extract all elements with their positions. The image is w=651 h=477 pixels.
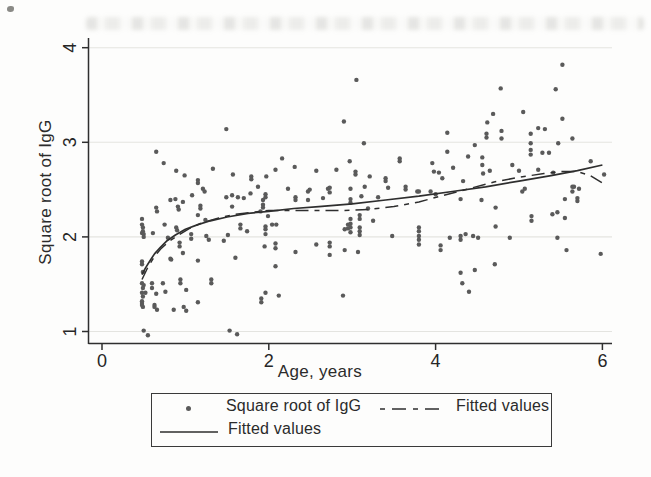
scatter-point	[162, 161, 166, 165]
scatter-point	[563, 197, 567, 201]
scatter-point	[143, 291, 147, 295]
scatter-point	[555, 210, 559, 214]
scatter-point	[155, 209, 159, 213]
scatter-point	[358, 213, 362, 217]
scatter-point	[226, 233, 230, 237]
scatter-point	[141, 225, 145, 229]
scatter-point	[440, 176, 444, 180]
scatter-point	[529, 141, 533, 145]
scatter-point	[473, 268, 477, 272]
scatter-point	[493, 262, 497, 266]
scatter-point	[238, 222, 242, 226]
scatter-point	[523, 187, 527, 191]
scatter-point	[499, 136, 503, 140]
scatter-point	[141, 294, 145, 298]
scatter-point	[207, 238, 211, 242]
scatter-point	[458, 271, 462, 275]
y-tick-label: 4	[60, 43, 80, 53]
scatter-point	[529, 214, 533, 218]
scatter-point	[488, 169, 492, 173]
scatter-point	[259, 300, 263, 304]
scatter-point	[484, 132, 488, 136]
scatter-point	[256, 185, 260, 189]
dash-dot-line-icon	[378, 403, 448, 415]
y-axis-title: Square root of IgG	[36, 119, 56, 265]
scatter-point	[577, 187, 581, 191]
y-tick-label: 2	[60, 232, 80, 242]
scatter-point	[348, 230, 352, 234]
scatter-point	[467, 290, 471, 294]
scatter-point	[348, 159, 352, 163]
legend-label-scatter: Square root of IgG	[226, 397, 361, 415]
scatter-point	[599, 252, 603, 256]
scatter-point	[458, 238, 462, 242]
scatter-point	[142, 328, 146, 332]
scatter-point	[363, 185, 367, 189]
scatter-point	[293, 165, 297, 169]
scatter-point	[343, 248, 347, 252]
scatter-point	[141, 286, 145, 290]
scatter-point	[231, 172, 235, 176]
scatter-point	[547, 151, 551, 155]
scatter-point	[266, 214, 270, 218]
scatter-point	[371, 219, 375, 223]
scatter-point	[560, 62, 564, 66]
scatter-point	[328, 186, 332, 190]
x-tick-label: 4	[431, 351, 441, 371]
scatter-point	[570, 189, 574, 193]
scatter-point	[602, 172, 606, 176]
scatter-point	[142, 235, 146, 239]
scatter-point	[445, 150, 449, 154]
scatter-point	[493, 224, 497, 228]
scatter-point	[224, 195, 228, 199]
scatter-point	[209, 277, 213, 281]
y-tick-labels: 1234	[60, 43, 89, 337]
scatter-point	[463, 232, 467, 236]
scatter-point	[432, 169, 436, 173]
scatter-point	[529, 132, 533, 136]
scatter-point	[273, 168, 277, 172]
scatter-point	[141, 305, 145, 309]
scatter-point	[262, 244, 266, 248]
scatter-point	[417, 189, 421, 193]
scatter-point	[202, 189, 206, 193]
scatter-point	[403, 187, 407, 191]
scatter-point	[184, 288, 188, 292]
scatter-point	[263, 291, 267, 295]
scatter-point	[479, 198, 483, 202]
scatter-point	[286, 187, 290, 191]
scatter-point	[150, 281, 154, 285]
scatter-point	[154, 292, 158, 296]
legend-label-fitted-solid: Fitted values	[228, 420, 321, 438]
scatter-point	[540, 151, 544, 155]
scatter-point	[386, 186, 390, 190]
scatter-point	[466, 154, 470, 158]
scatter-point	[172, 308, 176, 312]
scatter-point	[230, 193, 234, 197]
scatter-point	[428, 189, 432, 193]
scatter-point	[529, 152, 533, 156]
scatter-point	[233, 256, 237, 260]
scatter-point	[543, 127, 547, 131]
scatter-point	[417, 229, 421, 233]
scatter-point	[264, 174, 268, 178]
scatter-point	[263, 227, 267, 231]
y-tick-label: 3	[60, 137, 80, 147]
scatter-point	[328, 253, 332, 257]
scatter-point	[342, 119, 346, 123]
scanned-figure-page: 02461234 Square root of IgG Age, years S…	[0, 0, 651, 477]
scatter-point	[151, 231, 155, 235]
scatter-point	[570, 136, 574, 140]
scatter-point	[359, 194, 363, 198]
scatter-point	[189, 232, 193, 236]
scatter-point	[529, 148, 533, 152]
scatter-point	[140, 217, 144, 221]
scatter-point	[177, 207, 181, 211]
scatter-point	[140, 262, 144, 266]
scatter-point	[437, 170, 441, 174]
scatter-point	[211, 167, 215, 171]
scatter-point	[480, 163, 484, 167]
scatter-point	[184, 309, 188, 313]
scatter-point	[273, 264, 277, 268]
scatter-point	[493, 205, 497, 209]
